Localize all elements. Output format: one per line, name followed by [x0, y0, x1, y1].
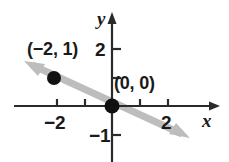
- y-axis-arrowhead-icon: [108, 12, 117, 24]
- x-tick-label-2: 2: [161, 113, 171, 132]
- x-axis-label: x: [202, 111, 211, 130]
- y-axis-label: y: [97, 9, 105, 28]
- line-arrowhead-right-icon: [169, 123, 190, 138]
- data-point-neg2-1: [47, 71, 61, 85]
- data-point-origin: [105, 99, 120, 114]
- y-tick-label-neg1: −1: [89, 126, 110, 145]
- coordinate-plane-figure: y x 2 −1 2 −2 (−2, 1) (0, 0): [0, 0, 229, 162]
- point-label-neg2-1: (−2, 1): [27, 40, 78, 58]
- point-label-origin: (0, 0): [114, 74, 155, 92]
- line-arrowhead-left-icon: [24, 61, 45, 76]
- y-tick-label-2: 2: [95, 40, 105, 59]
- x-tick-label-neg2: −2: [44, 113, 65, 132]
